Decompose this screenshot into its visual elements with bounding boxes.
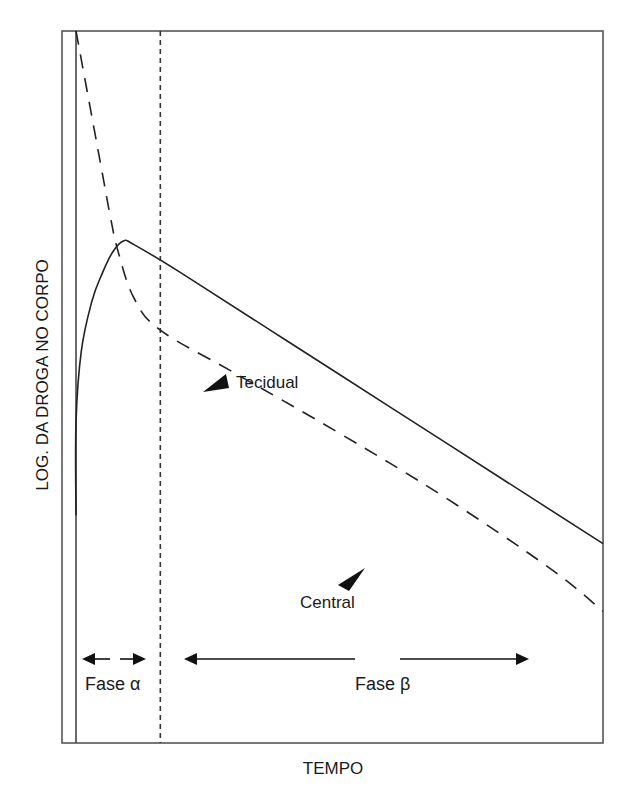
fase-beta-range bbox=[184, 653, 529, 665]
chart: LOG. DA DROGA NO CORPO TEMPO Tecidual Ce… bbox=[0, 0, 630, 808]
x-axis-label: TEMPO bbox=[303, 759, 363, 778]
central-pointer-icon bbox=[338, 568, 365, 591]
y-axis-label: LOG. DA DROGA NO CORPO bbox=[33, 259, 52, 490]
plot-frame bbox=[62, 31, 603, 743]
arrow-left-icon bbox=[82, 653, 95, 665]
tecidual-pointer-icon bbox=[203, 374, 229, 392]
series-tecidual-line bbox=[76, 240, 603, 544]
annotation-central: Central bbox=[300, 593, 355, 612]
annotation-tecidual: Tecidual bbox=[236, 373, 298, 392]
fase-alpha-range bbox=[82, 653, 146, 665]
arrow-left-icon bbox=[184, 653, 197, 665]
label-fase-beta: Fase β bbox=[355, 674, 410, 694]
arrow-right-icon bbox=[133, 653, 146, 665]
series-central-line bbox=[76, 31, 603, 611]
label-fase-alpha: Fase α bbox=[85, 674, 140, 694]
arrow-right-icon bbox=[516, 653, 529, 665]
